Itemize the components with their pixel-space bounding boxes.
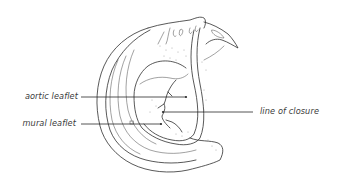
leaflet-ridge [140, 74, 188, 84]
line-of-closure-pointer [162, 111, 164, 113]
outer-wall-inner-line [106, 30, 196, 163]
aortic-leaflet-pointer [185, 96, 187, 98]
mural-leaflet-label: mural leaflet [23, 118, 76, 128]
aortic-leaflet-label: aortic leaflet [25, 91, 78, 101]
appendage [204, 22, 238, 48]
mural-leaflet-pointer [160, 123, 162, 125]
appendage-strand [204, 46, 224, 60]
top-edge [148, 17, 206, 28]
outer-wall-outline [97, 28, 223, 172]
line-of-closure-label: line of closure [260, 106, 319, 116]
wall-fold-line [110, 60, 140, 154]
appendage-inner [212, 30, 224, 38]
mitral-valve-diagram: aortic leaflet mural leaflet line of clo… [0, 0, 337, 194]
